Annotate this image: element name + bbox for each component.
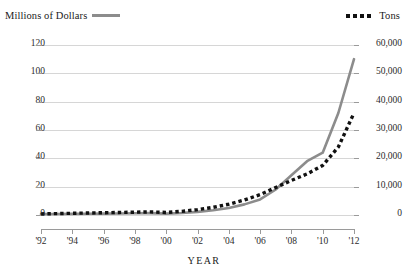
y-axis-left-tick-label: 20 (11, 181, 45, 191)
gridline (41, 215, 354, 216)
y-axis-left-tick-mark (36, 45, 41, 46)
y-axis-right-tick-mark (354, 187, 359, 188)
y-axis-right-tick-mark (354, 158, 359, 159)
x-axis-tick-mark (198, 229, 199, 234)
x-axis-title: YEAR (0, 255, 408, 266)
y-axis-right-tick-mark (354, 215, 359, 216)
x-axis-tick-mark (72, 229, 73, 234)
y-axis-left-tick-mark (36, 102, 41, 103)
y-axis-right-tick-label: 10,000 (360, 181, 402, 191)
x-axis-tick-mark (323, 229, 324, 234)
y-axis-left-tick-mark (36, 130, 41, 131)
x-axis-tick-label: '06 (254, 237, 265, 247)
y-axis-left-tick-label: 120 (11, 39, 45, 49)
x-axis-tick-mark (41, 229, 42, 234)
x-axis-tick-label: '12 (348, 237, 359, 247)
y-axis-right-tick-mark (354, 102, 359, 103)
series-lines (41, 45, 354, 215)
y-axis-right-tick-mark (354, 45, 359, 46)
line-millions-of-dollars (41, 59, 354, 214)
x-axis-tick-mark (354, 229, 355, 234)
x-axis-tick-label: '92 (35, 237, 46, 247)
x-axis-tick-mark (166, 229, 167, 234)
x-axis-tick-mark (229, 229, 230, 234)
y-axis-right-tick-label: 0 (360, 209, 402, 219)
y-axis-right-tick-label: 50,000 (360, 67, 402, 77)
x-axis-tick-mark (104, 229, 105, 234)
y-axis-right-tick-label: 30,000 (360, 124, 402, 134)
solid-line-swatch-icon (92, 14, 120, 17)
x-axis-tick-label: '10 (317, 237, 328, 247)
x-axis-tick-mark (291, 229, 292, 234)
x-axis-tick-label: '04 (223, 237, 234, 247)
chart-container: Millions of Dollars Tons YEAR 0204060801… (0, 0, 408, 280)
x-axis-tick-label: '96 (98, 237, 109, 247)
y-axis-left-tick-label: 80 (11, 96, 45, 106)
line-tons (41, 113, 354, 214)
x-axis-tick-label: '98 (129, 237, 140, 247)
legend-entry-tons: Tons (346, 10, 400, 21)
y-axis-left-tick-label: 0 (11, 209, 45, 219)
y-axis-left-tick-mark (36, 215, 41, 216)
legend-label-dollars: Millions of Dollars (5, 10, 87, 21)
y-axis-left-tick-mark (36, 73, 41, 74)
y-axis-left-tick-mark (36, 187, 41, 188)
y-axis-left-tick-label: 40 (11, 152, 45, 162)
chart-legend: Millions of Dollars Tons (0, 10, 408, 28)
legend-entry-dollars: Millions of Dollars (5, 10, 120, 21)
x-axis-tick-mark (260, 229, 261, 234)
y-axis-left-tick-label: 60 (11, 124, 45, 134)
x-axis-tick-mark (135, 229, 136, 234)
y-axis-right-tick-mark (354, 73, 359, 74)
plot-area (41, 45, 354, 215)
y-axis-right-tick-label: 40,000 (360, 96, 402, 106)
y-axis-right-tick-mark (354, 130, 359, 131)
x-axis-tick-label: '94 (67, 237, 78, 247)
legend-label-tons: Tons (379, 10, 400, 21)
y-axis-left-tick-mark (36, 158, 41, 159)
y-axis-right-tick-label: 20,000 (360, 152, 402, 162)
x-axis-tick-label: '08 (286, 237, 297, 247)
y-axis-left-tick-label: 100 (11, 67, 45, 77)
y-axis-right-tick-label: 60,000 (360, 39, 402, 49)
dotted-line-swatch-icon (346, 14, 374, 18)
x-axis-tick-label: '02 (192, 237, 203, 247)
x-axis-tick-label: '00 (161, 237, 172, 247)
